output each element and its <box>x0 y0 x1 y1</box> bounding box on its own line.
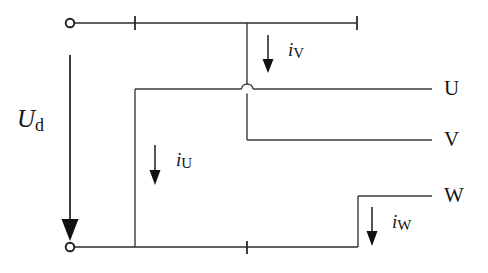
voltage-ud-arrow-head <box>62 219 79 241</box>
voltage-ud-arrow <box>62 55 79 241</box>
voltage-ud-label: Ud <box>17 106 44 134</box>
current-iu-arrow-head <box>150 170 161 185</box>
current-iu-label: iU <box>176 150 192 171</box>
current-iw-arrow <box>367 207 378 246</box>
current-iv-arrow <box>263 35 274 73</box>
voltage-ud-symbol: U <box>17 105 35 132</box>
current-iw-subscript: W <box>397 217 411 233</box>
phase-w-label: W <box>444 185 464 206</box>
current-iu-subscript: U <box>181 155 192 171</box>
phase-v-label: V <box>444 129 459 150</box>
wire-crossover-hop <box>242 84 254 89</box>
voltage-ud-subscript: d <box>35 115 44 135</box>
rail-tick-marks <box>135 16 357 254</box>
current-iw-label: iW <box>392 212 412 233</box>
current-iv-subscript: V <box>293 45 304 61</box>
dc-negative-terminal-icon <box>66 243 75 252</box>
dc-bus-rails <box>70 23 358 247</box>
current-iw-arrow-head <box>367 231 378 246</box>
phase-u-label: U <box>444 78 459 99</box>
current-iu-arrow <box>150 145 161 185</box>
circuit-diagram-canvas: Ud iV iU iW U V W <box>0 0 488 273</box>
current-iv-arrow-head <box>263 59 274 73</box>
phase-v-branch <box>247 23 432 140</box>
current-iv-label: iV <box>288 40 304 61</box>
schematic-svg <box>0 0 488 273</box>
dc-positive-terminal-icon <box>66 19 75 28</box>
